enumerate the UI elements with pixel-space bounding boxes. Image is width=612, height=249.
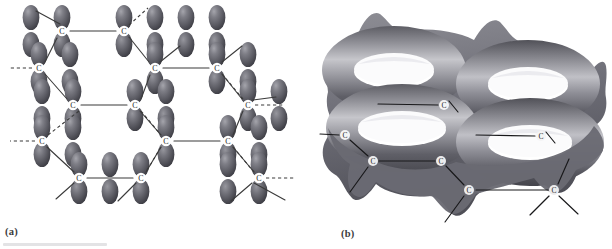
carbon-atom: C bbox=[37, 136, 47, 146]
carbon-atom: C bbox=[34, 63, 44, 73]
panel-b-caption: (b) bbox=[341, 228, 354, 239]
svg-text:C: C bbox=[551, 186, 556, 195]
carbon-atom: C bbox=[536, 131, 546, 141]
svg-text:C: C bbox=[132, 101, 137, 110]
carbon-atom: C bbox=[57, 26, 67, 36]
bottom-rule-divider bbox=[3, 243, 107, 246]
carbon-atom: C bbox=[549, 185, 559, 195]
svg-text:C: C bbox=[256, 174, 261, 183]
svg-text:C: C bbox=[245, 101, 250, 110]
svg-text:C: C bbox=[138, 174, 143, 183]
svg-text:C: C bbox=[370, 157, 375, 166]
carbon-atom: C bbox=[136, 173, 146, 183]
svg-text:C: C bbox=[152, 64, 157, 73]
carbon-atom: C bbox=[212, 63, 222, 73]
panel-a-svg: C C C C C C C C C C C C C C bbox=[0, 0, 306, 249]
panel-b-svg: C C C C C C C bbox=[306, 0, 612, 249]
panel-a-localized-p-orbitals: C C C C C C C C C C C C C C bbox=[0, 0, 306, 249]
carbon-atom: C bbox=[436, 156, 446, 166]
carbon-atom: C bbox=[464, 185, 474, 195]
carbon-atom: C bbox=[161, 136, 171, 146]
svg-text:C: C bbox=[70, 101, 75, 110]
panel-b-delocalized-pi-cloud: C C C C C C C bbox=[306, 0, 612, 249]
svg-text:C: C bbox=[438, 157, 443, 166]
carbon-atom: C bbox=[223, 136, 233, 146]
carbon-atom: C bbox=[68, 100, 78, 110]
panel-a-caption: (a) bbox=[5, 226, 18, 237]
svg-text:C: C bbox=[163, 137, 168, 146]
svg-text:C: C bbox=[121, 27, 126, 36]
svg-text:C: C bbox=[39, 137, 44, 146]
carbon-atom: C bbox=[150, 63, 160, 73]
svg-text:C: C bbox=[466, 186, 471, 195]
svg-text:C: C bbox=[225, 137, 230, 146]
svg-text:C: C bbox=[342, 131, 347, 140]
svg-text:C: C bbox=[59, 27, 64, 36]
carbon-atom: C bbox=[254, 173, 264, 183]
carbon-atom: C bbox=[130, 100, 140, 110]
svg-text:C: C bbox=[36, 64, 41, 73]
carbon-atom: C bbox=[439, 100, 449, 110]
carbon-atom: C bbox=[368, 156, 378, 166]
carbon-atom: C bbox=[119, 26, 129, 36]
carbon-atom: C bbox=[74, 173, 84, 183]
figure-root: C C C C C C C C C C C C C C bbox=[0, 0, 612, 249]
svg-text:C: C bbox=[538, 132, 543, 141]
carbon-atom: C bbox=[340, 130, 350, 140]
svg-text:C: C bbox=[214, 64, 219, 73]
svg-text:C: C bbox=[76, 174, 81, 183]
carbon-atom: C bbox=[243, 100, 253, 110]
svg-text:C: C bbox=[441, 101, 446, 110]
